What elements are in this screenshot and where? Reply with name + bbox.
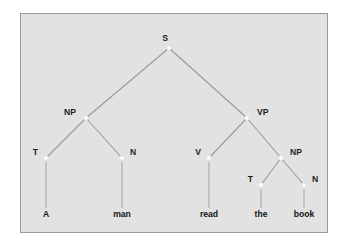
tree-node-dot-np1: [84, 116, 89, 121]
leaf-word-leaf-a: A: [43, 209, 49, 219]
tree-node-label-n1: N: [130, 147, 136, 157]
tree-node-label-t1: T: [33, 147, 39, 157]
tree-node-label-n2: N: [312, 174, 318, 184]
tree-edge-np2-t2: [261, 158, 281, 185]
tree-edge-np1-n1: [86, 118, 122, 158]
tree-canvas: SNPVPTNVNPTN Amanreadthebook: [21, 14, 328, 233]
tree-edge-s-np1: [86, 48, 169, 118]
tree-node-dot-np2: [279, 156, 284, 161]
syntax-tree-diagram: SNPVPTNVNPTN Amanreadthebook: [0, 0, 348, 247]
tree-node-label-s: S: [162, 33, 168, 43]
tree-edge-vp-np2: [247, 118, 281, 158]
leaf-word-leaf-book: book: [294, 209, 315, 219]
tree-leaf-lines: [46, 162, 304, 208]
tree-node-label-v: V: [195, 147, 201, 157]
tree-leaf-labels: Amanreadthebook: [43, 209, 315, 219]
leaf-word-leaf-man: man: [113, 209, 131, 219]
tree-node-label-np2: NP: [290, 147, 302, 157]
tree-node-label-t2: T: [248, 174, 254, 184]
tree-edge-s-vp: [169, 48, 247, 118]
tree-node-dot-t2: [259, 183, 264, 188]
leaf-word-leaf-read: read: [200, 209, 218, 219]
tree-edge-np1-t1: [46, 118, 86, 158]
tree-edge-vp-v: [209, 118, 247, 158]
leaf-word-leaf-the: the: [255, 209, 268, 219]
tree-node-dot-t1: [44, 156, 49, 161]
tree-node-label-vp: VP: [257, 107, 269, 117]
tree-node-dot-n2: [302, 183, 307, 188]
tree-node-dot-s: [167, 46, 172, 51]
tree-node-dot-n1: [120, 156, 125, 161]
tree-edge-np2-n2: [281, 158, 304, 185]
tree-node-label-np1: NP: [64, 107, 76, 117]
tree-panel: SNPVPTNVNPTN Amanreadthebook: [20, 13, 328, 233]
tree-node-dot-vp: [245, 116, 250, 121]
tree-node-labels: SNPVPTNVNPTN: [33, 33, 318, 184]
tree-node-dot-v: [207, 156, 212, 161]
